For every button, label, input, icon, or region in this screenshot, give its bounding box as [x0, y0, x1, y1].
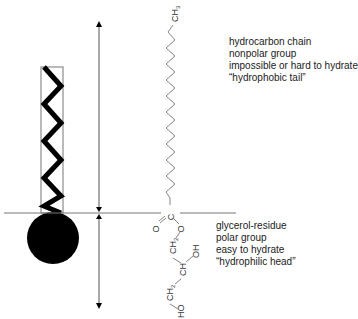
head-circle — [27, 212, 79, 264]
tail-line-3: impossible or hard to hydrate — [229, 60, 358, 72]
carbonyl-oxygen-label: O — [151, 225, 161, 232]
head-line-2: polar group — [216, 232, 296, 244]
tail-zigzag — [44, 67, 61, 213]
hydrocarbon-chain: CH3 — [166, 5, 181, 205]
arrow-down-icon — [96, 303, 102, 309]
arrow-down-icon — [96, 207, 102, 212]
ch3-label: CH3 — [170, 5, 181, 22]
ester-oxygen-label: O — [176, 225, 186, 232]
tail-description: hydrocarbon chain nonpolar group impossi… — [229, 36, 358, 84]
schematic-lipid — [27, 67, 79, 264]
ch2-label-2: CH2 — [165, 284, 176, 301]
arrow-up-icon — [96, 21, 102, 27]
head-description: glycerol-residue polar group easy to hyd… — [216, 220, 296, 268]
head-line-4: “hydrophilic head” — [216, 256, 296, 268]
head-line-1: glycerol-residue — [216, 220, 296, 232]
arrow-up-icon — [96, 214, 102, 219]
glycerol-residue-structure: C O O CH2 CH OH CH2 HO — [151, 213, 201, 318]
ho-label: HO — [176, 305, 186, 319]
tail-line-4: “hydrophobic tail” — [229, 72, 358, 84]
tail-line-1: hydrocarbon chain — [229, 36, 358, 48]
ch2-label-1: CH2 — [168, 237, 179, 254]
ch-label: CH — [178, 263, 188, 276]
dimension-arrows — [96, 21, 102, 309]
tail-line-2: nonpolar group — [229, 48, 358, 60]
head-line-3: easy to hydrate — [216, 244, 296, 256]
oh-label: OH — [191, 245, 201, 259]
